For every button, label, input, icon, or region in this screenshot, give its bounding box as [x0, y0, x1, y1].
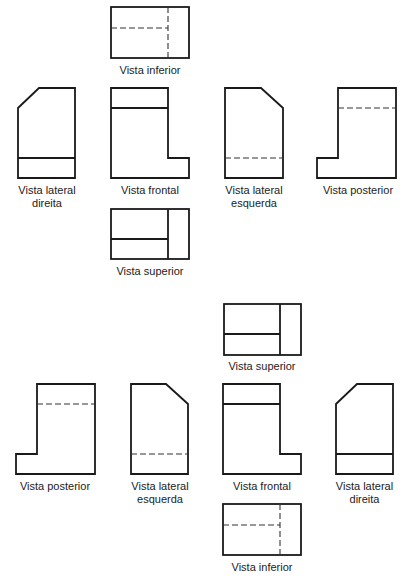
top-view-frontal — [111, 88, 189, 178]
top-view-posterior — [317, 88, 396, 178]
top-view-superior — [111, 209, 189, 259]
label-line: Vista lateral — [318, 480, 411, 493]
bottom-view-inferior — [223, 504, 301, 555]
label-bottom-lateral-direita: Vista lateral direita — [318, 480, 411, 506]
label-top-lateral-esquerda: Vista lateral esquerda — [206, 184, 302, 210]
label-line: Vista lateral — [112, 480, 208, 493]
top-view-inferior — [111, 7, 189, 58]
top-view-lateral-direita — [18, 88, 75, 178]
label-line: esquerda — [112, 493, 208, 506]
label-top-superior: Vista superior — [100, 265, 200, 278]
label-bottom-posterior: Vista posterior — [5, 480, 105, 493]
label-line: direita — [0, 197, 94, 210]
label-top-lateral-direita: Vista lateral direita — [0, 184, 94, 210]
label-line: direita — [318, 493, 411, 506]
bottom-view-lateral-esquerda — [131, 384, 188, 474]
bottom-view-posterior — [16, 384, 95, 474]
label-top-frontal: Vista frontal — [100, 184, 200, 197]
label-line: Vista lateral — [0, 184, 94, 197]
label-line: Vista lateral — [206, 184, 302, 197]
label-line: esquerda — [206, 197, 302, 210]
label-bottom-superior: Vista superior — [212, 360, 312, 373]
bottom-view-lateral-direita — [336, 384, 393, 474]
bottom-view-frontal — [223, 384, 301, 474]
top-view-lateral-esquerda — [225, 88, 283, 178]
label-top-posterior: Vista posterior — [308, 184, 408, 197]
bottom-view-superior — [224, 304, 301, 355]
label-bottom-inferior: Vista inferior — [212, 561, 312, 574]
label-bottom-lateral-esquerda: Vista lateral esquerda — [112, 480, 208, 506]
label-top-inferior: Vista inferior — [100, 64, 200, 77]
label-bottom-frontal: Vista frontal — [212, 480, 312, 493]
